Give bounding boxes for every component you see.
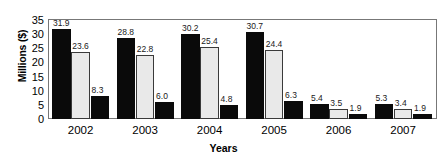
- bar: [284, 101, 303, 119]
- bar: [246, 32, 265, 119]
- bar: [349, 114, 368, 119]
- bar-value-label: 4.8: [221, 95, 233, 104]
- x-tick-label: 2002: [51, 124, 111, 136]
- bar-value-label: 8.3: [92, 86, 104, 95]
- bar: [329, 109, 348, 119]
- bar: [181, 34, 200, 119]
- x-tick-label: 2007: [373, 124, 433, 136]
- bar: [52, 29, 71, 119]
- bar-value-label: 28.8: [118, 28, 135, 37]
- x-tick-label: 2004: [180, 124, 240, 136]
- bar-group: 5.43.51.9: [310, 20, 367, 119]
- bar: [394, 109, 413, 119]
- y-tick-label: 0: [22, 114, 44, 125]
- y-tick-label: 15: [22, 72, 44, 83]
- bar: [310, 104, 329, 119]
- x-tick-label: 2003: [115, 124, 175, 136]
- bar-group: 28.822.86.0: [117, 20, 174, 119]
- bar-value-label: 25.4: [201, 37, 218, 46]
- y-tick-label: 30: [22, 29, 44, 40]
- bar-group: 5.33.41.9: [375, 20, 432, 119]
- x-tick-label: 2006: [309, 124, 369, 136]
- bar-group: 31.923.68.3: [52, 20, 109, 119]
- bar-value-label: 1.9: [414, 104, 426, 113]
- bar-value-label: 3.5: [330, 99, 342, 108]
- bar-value-label: 30.7: [247, 22, 264, 31]
- bar: [117, 38, 136, 119]
- bar-value-label: 6.3: [285, 91, 297, 100]
- bar: [375, 104, 394, 119]
- bar-value-label: 23.6: [72, 42, 89, 51]
- bar: [91, 96, 110, 119]
- bar-value-label: 5.4: [311, 94, 323, 103]
- bar: [136, 55, 155, 119]
- bar: [200, 47, 219, 119]
- y-tick-label: 35: [22, 15, 44, 26]
- y-tick-label: 25: [22, 43, 44, 54]
- bar-value-label: 31.9: [53, 19, 70, 28]
- bar-value-label: 5.3: [376, 94, 388, 103]
- x-axis-title: Years: [0, 142, 447, 154]
- bar-value-label: 3.4: [395, 99, 407, 108]
- bar: [220, 105, 239, 119]
- bars-layer: 31.923.68.328.822.86.030.225.44.830.724.…: [49, 20, 436, 119]
- bar-value-label: 1.9: [350, 104, 362, 113]
- y-tick-label: 10: [22, 86, 44, 97]
- bar: [265, 50, 284, 119]
- y-tick-label: 20: [22, 57, 44, 68]
- bar-group: 30.225.44.8: [181, 20, 238, 119]
- bar-value-label: 24.4: [266, 40, 283, 49]
- bar: [71, 52, 90, 119]
- x-tick-label: 2005: [244, 124, 304, 136]
- bar-value-label: 22.8: [137, 45, 154, 54]
- bar-group: 30.724.46.3: [246, 20, 303, 119]
- bar-chart: Millions ($) 35302520151050 31.923.68.32…: [0, 0, 447, 158]
- bar-value-label: 6.0: [156, 92, 168, 101]
- bar: [413, 114, 432, 119]
- bar-value-label: 30.2: [182, 24, 199, 33]
- y-tick-label: 5: [22, 100, 44, 111]
- bar: [155, 102, 174, 119]
